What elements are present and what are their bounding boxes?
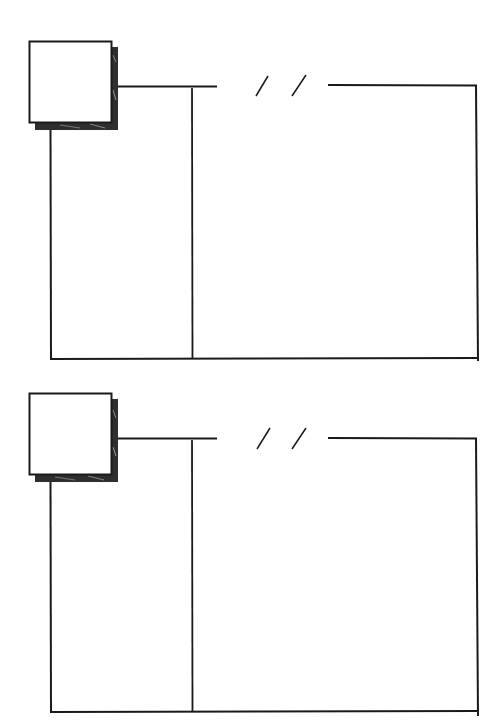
break-mark-icon xyxy=(257,428,306,449)
panel-frame-graphic xyxy=(0,352,499,723)
panel-frame-graphic xyxy=(0,0,499,372)
break-mark-icon xyxy=(256,75,306,96)
storyboard-panel-2 xyxy=(0,352,499,704)
storyboard-panel-1 xyxy=(0,0,499,352)
thumbnail-square xyxy=(30,42,112,123)
thumbnail-square xyxy=(30,394,112,475)
